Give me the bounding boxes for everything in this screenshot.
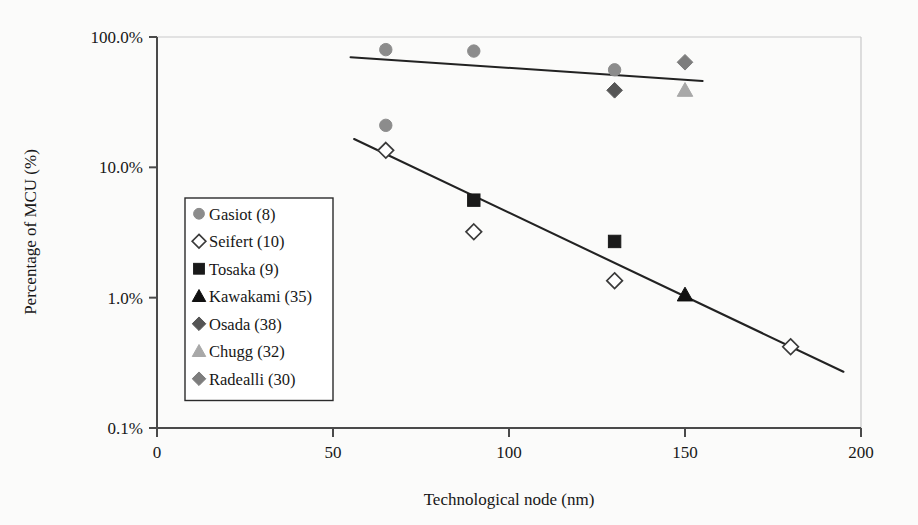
x-tick-label: 50	[325, 443, 342, 462]
data-point	[608, 64, 620, 76]
data-point	[468, 194, 480, 206]
x-tick-label: 200	[848, 443, 874, 462]
scatter-plot: 0.1%1.0%10.0%100.0%050100150200 Gasiot (…	[0, 0, 918, 525]
x-tick-label: 150	[672, 443, 698, 462]
legend-label: Kawakami (35)	[209, 287, 312, 306]
legend-label: Gasiot (8)	[209, 205, 275, 224]
data-point	[608, 235, 620, 247]
x-axis-title: Technological node (nm)	[424, 490, 595, 509]
legend-label: Radealli (30)	[209, 370, 296, 389]
y-tick-label: 1.0%	[108, 289, 143, 308]
data-point	[380, 43, 392, 55]
y-tick-label: 100.0%	[91, 28, 143, 47]
legend-label: Osada (38)	[209, 315, 282, 334]
x-tick-label: 100	[496, 443, 522, 462]
legend-label: Seifert (10)	[209, 232, 285, 251]
legend-marker-square-icon	[194, 263, 205, 274]
y-axis-title: Percentage of MCU (%)	[21, 149, 40, 315]
plot-background	[0, 0, 918, 525]
chart-container: 0.1%1.0%10.0%100.0%050100150200 Gasiot (…	[0, 0, 918, 525]
x-tick-label: 0	[153, 443, 162, 462]
legend-marker-circle-icon	[194, 208, 205, 219]
chart-legend[interactable]: Gasiot (8)Seifert (10)Tosaka (9)Kawakami…	[185, 198, 333, 401]
data-point	[380, 119, 392, 131]
legend-label: Tosaka (9)	[209, 260, 279, 279]
legend-item-kawakami-35[interactable]: Kawakami (35)	[192, 287, 312, 306]
legend-label: Chugg (32)	[209, 342, 285, 361]
data-point	[468, 45, 480, 57]
y-tick-label: 0.1%	[108, 419, 143, 438]
y-tick-label: 10.0%	[99, 158, 143, 177]
